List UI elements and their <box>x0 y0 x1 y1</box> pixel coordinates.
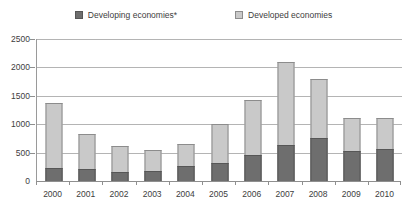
x-tick-2005: 2005 <box>202 185 235 205</box>
x-tick-2002: 2002 <box>102 185 135 205</box>
bar-segment-developing[interactable] <box>45 168 62 181</box>
stacked-bar[interactable] <box>244 100 261 181</box>
developed-swatch-icon <box>235 11 243 19</box>
bar-segment-developing[interactable] <box>377 149 394 181</box>
x-tick-label: 2001 <box>76 189 95 199</box>
bar-segment-developing[interactable] <box>277 145 294 181</box>
plot-area <box>36 39 401 181</box>
bar-slot <box>269 39 302 181</box>
x-tick-label: 2003 <box>143 189 162 199</box>
x-tick-mark <box>169 181 170 185</box>
stacked-bar-chart: Developing economies* Developed economie… <box>0 0 407 219</box>
stacked-bar[interactable] <box>344 118 361 181</box>
x-tick-2007: 2007 <box>268 185 301 205</box>
x-tick-label: 2005 <box>209 189 228 199</box>
x-tick-2000: 2000 <box>36 185 69 205</box>
y-tick-label-1500: 1500 <box>0 92 30 101</box>
x-tick-mark <box>69 181 70 185</box>
developing-swatch-icon <box>75 11 83 19</box>
stacked-bar[interactable] <box>211 124 228 181</box>
x-tick-label: 2004 <box>176 189 195 199</box>
x-tick-mark <box>400 181 401 185</box>
x-tick-label: 2007 <box>275 189 294 199</box>
bar-slot <box>336 39 369 181</box>
x-tick-label: 2010 <box>375 189 394 199</box>
bar-segment-developing[interactable] <box>111 172 128 181</box>
bar-slot <box>369 39 402 181</box>
y-axis-labels: 2500 2000 1500 1000 500 <box>0 39 36 181</box>
x-tick-2004: 2004 <box>169 185 202 205</box>
x-tick-mark <box>302 181 303 185</box>
y-tick-label-2000: 2000 <box>0 63 30 72</box>
stacked-bar[interactable] <box>78 134 95 181</box>
y-tick-mark-1500 <box>30 96 35 97</box>
x-axis-labels: 2000200120022003200420052006200720082009… <box>36 185 401 205</box>
legend-label-developing: Developing economies* <box>88 10 177 20</box>
bar-segment-developing[interactable] <box>145 171 162 181</box>
x-tick-mark <box>335 181 336 185</box>
chart-legend: Developing economies* Developed economie… <box>0 6 407 24</box>
stacked-bar[interactable] <box>277 62 294 181</box>
bar-segment-developing[interactable] <box>244 155 261 181</box>
x-axis-line <box>36 181 401 182</box>
x-tick-label: 2000 <box>43 189 62 199</box>
x-tick-mark <box>202 181 203 185</box>
bar-slot <box>170 39 203 181</box>
y-tick-label-2500: 2500 <box>0 35 30 44</box>
x-tick-mark <box>36 181 37 185</box>
bar-group <box>37 39 402 181</box>
legend-item-developing: Developing economies* <box>75 10 177 20</box>
stacked-bar[interactable] <box>377 118 394 181</box>
bar-slot <box>70 39 103 181</box>
bar-segment-developing[interactable] <box>344 151 361 181</box>
bar-slot <box>137 39 170 181</box>
bar-segment-developing[interactable] <box>178 166 195 181</box>
legend-item-developed: Developed economies <box>235 10 332 20</box>
stacked-bar[interactable] <box>178 144 195 181</box>
x-tick-label: 2002 <box>110 189 129 199</box>
y-tick-mark-2500 <box>30 39 35 40</box>
bar-segment-developing[interactable] <box>78 169 95 181</box>
stacked-bar[interactable] <box>311 79 328 181</box>
x-tick-label: 2008 <box>309 189 328 199</box>
bar-slot <box>203 39 236 181</box>
x-tick-2006: 2006 <box>235 185 268 205</box>
y-tick-label-0: 0 <box>0 177 30 186</box>
bar-slot <box>37 39 70 181</box>
y-tick-mark-1000 <box>30 124 35 125</box>
x-tick-2010: 2010 <box>368 185 401 205</box>
stacked-bar[interactable] <box>45 103 62 181</box>
y-tick-mark-2000 <box>30 67 35 68</box>
y-tick-mark-500 <box>30 153 35 154</box>
bar-segment-developing[interactable] <box>211 163 228 181</box>
bar-segment-developing[interactable] <box>311 138 328 181</box>
x-tick-2003: 2003 <box>136 185 169 205</box>
x-tick-2008: 2008 <box>302 185 335 205</box>
bar-slot <box>103 39 136 181</box>
x-tick-mark <box>235 181 236 185</box>
x-tick-label: 2006 <box>242 189 261 199</box>
x-tick-2009: 2009 <box>335 185 368 205</box>
x-tick-mark <box>102 181 103 185</box>
x-tick-mark <box>136 181 137 185</box>
bar-slot <box>236 39 269 181</box>
legend-label-developed: Developed economies <box>248 10 332 20</box>
y-tick-label-500: 500 <box>0 149 30 158</box>
x-tick-mark <box>268 181 269 185</box>
y-tick-label-1000: 1000 <box>0 120 30 129</box>
x-tick-label: 2009 <box>342 189 361 199</box>
x-tick-2001: 2001 <box>69 185 102 205</box>
bar-slot <box>303 39 336 181</box>
stacked-bar[interactable] <box>145 150 162 181</box>
x-tick-mark <box>368 181 369 185</box>
stacked-bar[interactable] <box>111 146 128 182</box>
